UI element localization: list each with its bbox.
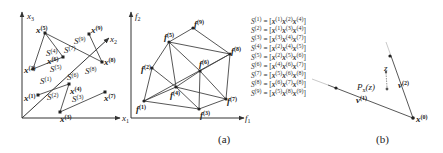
x1-axis-label: x1 xyxy=(121,113,129,124)
label-x7: x(7) xyxy=(103,93,116,103)
triangulation-edges xyxy=(144,28,230,109)
label-f6: f(6) xyxy=(199,59,209,69)
f1-axis-label: f1 xyxy=(245,113,251,124)
label-x2: x(2) xyxy=(23,65,36,75)
v2-extension xyxy=(386,42,391,56)
simplex-label-5: S(5) xyxy=(50,64,62,74)
label-v2: v(2) xyxy=(398,80,409,90)
point-x1 xyxy=(37,94,40,97)
caption-b: (b) xyxy=(376,133,389,146)
point-projection xyxy=(386,88,389,91)
point-f6 xyxy=(198,69,201,72)
point-v2-end xyxy=(388,54,391,57)
label-x1: x(1) xyxy=(23,93,36,103)
simplex-label-9: S(9) xyxy=(74,36,86,46)
x2-axis-label: x2 xyxy=(109,34,117,45)
x3-axis-label: x3 xyxy=(26,11,34,22)
figure-canvas: x3 x1 x2 x(5) x(2) xyxy=(0,0,443,153)
v1-extension xyxy=(312,79,328,85)
simplex-label-8: S(8) xyxy=(85,66,97,76)
objective-space-plot: f2 f1 xyxy=(131,11,251,124)
decision-space-plot: x3 x1 x2 x(5) x(2) xyxy=(22,11,129,124)
point-x6 xyxy=(62,56,65,59)
point-x0 xyxy=(411,116,415,120)
point-f4 xyxy=(174,85,177,88)
simplex-label-7: S(7) xyxy=(64,45,76,55)
caption-a: (a) xyxy=(218,133,231,146)
point-f1 xyxy=(142,99,145,102)
label-f9: f(9) xyxy=(194,19,204,29)
simplex-labels: S(1) S(2) S(3) S(4) S(5) S(6) S(7) S(8) … xyxy=(40,36,97,104)
v2-direction-line xyxy=(391,56,413,118)
f2-axis-label: f2 xyxy=(135,11,141,22)
point-v1-end xyxy=(334,86,337,89)
label-projection: Px(z) xyxy=(356,82,375,93)
label-z: z xyxy=(383,63,388,73)
projection-segment xyxy=(386,73,387,87)
simplex-list: S(1) = [x(1)x(2)x(4)] S(2) = [x(1)x(3)x(… xyxy=(251,16,306,98)
panel-b-diagram: z Px(z) v(1) v(2) x(0) xyxy=(312,42,428,124)
label-f7: f(7) xyxy=(227,96,237,106)
simplex-label-6: S(6) xyxy=(67,72,79,82)
label-f4: f(4) xyxy=(170,90,180,100)
simplex-label-1: S(1) xyxy=(40,76,52,86)
label-v1: v(1) xyxy=(356,95,367,105)
simplex-label-2: S(2) xyxy=(47,92,59,102)
label-f8: f(8) xyxy=(231,46,241,56)
label-f2: f(2) xyxy=(141,64,151,74)
point-x5 xyxy=(44,32,47,35)
simplex-eq-9: S(9) = [x(5)x(8)x(9)] xyxy=(251,88,306,98)
label-x0: x(0) xyxy=(415,114,428,124)
label-f1: f(1) xyxy=(136,104,146,114)
label-x8: x(8) xyxy=(103,57,116,67)
label-x9: x(9) xyxy=(90,25,103,35)
label-x3: x(3) xyxy=(59,114,72,124)
point-f5 xyxy=(167,40,170,43)
